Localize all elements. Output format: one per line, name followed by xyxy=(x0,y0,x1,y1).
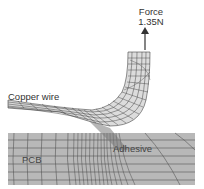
fea-figure: Force 1.35N Copper wire Adhesive PCB xyxy=(0,0,204,189)
force-arrow xyxy=(141,27,149,50)
force-label: Force 1.35N xyxy=(134,7,168,27)
force-value: 1.35N xyxy=(134,17,168,27)
pcb-label: PCB xyxy=(22,155,42,165)
adhesive-label: Adhesive xyxy=(113,144,152,154)
copper-wire-label: Copper wire xyxy=(8,92,59,102)
pcb-block xyxy=(8,120,195,185)
copper-wire xyxy=(8,52,150,126)
